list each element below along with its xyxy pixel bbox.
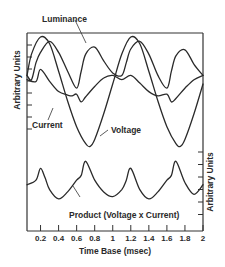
product-leader [73, 186, 80, 197]
luminance-label: Luminance [42, 14, 87, 24]
product-curve [27, 161, 203, 199]
x-tick-label: 1 [111, 234, 116, 243]
current-leader [48, 108, 53, 120]
voltage-label: Voltage [111, 125, 141, 135]
x-tick-labels: 0.20.40.60.811.21.41.61.82 [35, 234, 206, 243]
x-tick-label: 1.4 [143, 234, 155, 243]
y-axis-title-left: Arbitrary Units [12, 50, 22, 110]
left-y-ticks [27, 45, 32, 129]
x-tick-label: 1.2 [125, 234, 137, 243]
chart: 0.20.40.60.811.21.41.61.82 Luminance Cur… [0, 0, 225, 267]
product-label: Product (Voltage x Current) [69, 210, 180, 220]
x-tick-label: 0.8 [89, 234, 101, 243]
x-tick-label: 0.6 [71, 234, 83, 243]
x-ticks [41, 225, 203, 231]
voltage-leader [100, 130, 108, 136]
x-tick-label: 1.8 [179, 234, 191, 243]
right-y-ticks [198, 152, 203, 215]
x-tick-label: 2 [201, 234, 206, 243]
y-axis-title-right: Arbitrary Units [205, 152, 215, 212]
x-axis-title: Time Base (msec) [79, 246, 151, 256]
current-label: Current [32, 120, 63, 130]
luminance-curve [27, 41, 203, 88]
x-tick-label: 1.6 [161, 234, 173, 243]
x-tick-label: 0.4 [53, 234, 65, 243]
x-tick-label: 0.2 [35, 234, 47, 243]
